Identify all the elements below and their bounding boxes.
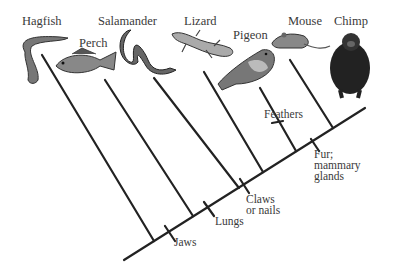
trait-label-feathers: Feathers <box>264 109 303 120</box>
trait-label-fur: Fur; mammary glands <box>314 149 361 182</box>
perch-icon <box>56 48 116 73</box>
trait-label-lungs: Lungs <box>215 216 244 227</box>
trait-label-claws: Claws or nails <box>246 194 280 216</box>
branch-lizard <box>204 72 263 172</box>
branch-hagfish <box>42 55 154 241</box>
taxon-label-hagfish: Hagfish <box>22 15 62 27</box>
taxon-label-chimp: Chimp <box>334 15 368 27</box>
taxon-label-pigeon: Pigeon <box>233 29 268 41</box>
branch-perch <box>105 80 193 216</box>
trait-label-jaws: Jaws <box>174 237 196 248</box>
taxon-label-mouse: Mouse <box>288 15 322 27</box>
taxon-label-salamander: Salamander <box>98 15 157 27</box>
mouse-icon <box>272 33 330 49</box>
cladogram-diagram: Hagfish Perch Salamander Lizard Pigeon M… <box>0 0 394 277</box>
chimp-icon <box>330 33 370 98</box>
salamander-icon <box>120 30 176 74</box>
taxon-label-perch: Perch <box>79 37 107 49</box>
branch-salamander <box>154 78 239 188</box>
lizard-icon <box>172 30 233 58</box>
tick-feathers <box>272 121 283 123</box>
cladogram-lines <box>0 0 394 277</box>
taxon-label-lizard: Lizard <box>184 15 217 27</box>
